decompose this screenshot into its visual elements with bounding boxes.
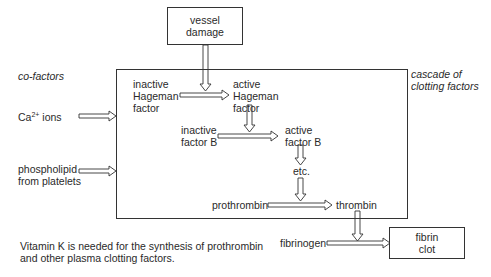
inactive-factor-b: inactive factor B: [181, 124, 217, 148]
inactive-factor-b-line1: inactive: [181, 124, 217, 136]
inactive-factor-b-line2: factor B: [181, 136, 217, 148]
vessel-damage-box: vessel damage: [167, 7, 243, 45]
active-factor-b-line2: factor B: [285, 136, 321, 148]
fibrin-clot-line2: clot: [390, 243, 464, 255]
vessel-damage-line2: damage: [168, 26, 242, 38]
active-factor-b-line1: active: [285, 124, 321, 136]
fibrinogen-label: fibrinogen: [280, 237, 326, 249]
fibrin-clot-line1: fibrin: [390, 231, 464, 243]
vitamin-k-note: Vitamin K is needed for the synthesis of…: [20, 240, 263, 264]
active-factor-b: active factor B: [285, 124, 321, 148]
vitamin-k-line1: Vitamin K is needed for the synthesis of…: [20, 240, 263, 252]
thrombin-label: thrombin: [336, 199, 377, 211]
phospholipid-line2: from platelets: [18, 175, 81, 187]
etc-label: etc.: [293, 165, 310, 177]
active-hageman-line1: active: [233, 78, 279, 90]
fibrin-clot-box: fibrin clot: [389, 227, 465, 259]
arrow-ca-to-cascade: [79, 111, 116, 121]
active-hageman-factor: active Hageman factor: [233, 78, 279, 114]
active-hageman-line2: Hageman: [233, 90, 279, 102]
vitamin-k-line2: and other plasma clotting factors.: [20, 252, 263, 264]
ca-base: Ca: [18, 111, 31, 123]
ca-ions-label: Ca2+ ions: [18, 111, 62, 123]
vessel-damage-line1: vessel: [168, 14, 242, 26]
prothrombin-label: prothrombin: [212, 199, 268, 211]
ca-charge: 2+: [31, 111, 39, 118]
cofactors-title: co-factors: [18, 70, 64, 82]
cascade-title: cascade of clotting factors: [411, 68, 479, 92]
ca-suffix: ions: [39, 111, 61, 123]
cascade-title-line2: clotting factors: [411, 80, 479, 92]
active-hageman-line3: factor: [233, 102, 279, 114]
inactive-hageman-factor: inactive Hageman factor: [133, 78, 179, 114]
phospholipid-line1: phospholipid: [18, 163, 81, 175]
cascade-title-line1: cascade of: [411, 68, 479, 80]
arrow-phospholipid-to-cascade: [79, 166, 116, 176]
phospholipid-label: phospholipid from platelets: [18, 163, 81, 187]
inactive-hageman-line3: factor: [133, 102, 179, 114]
inactive-hageman-line1: inactive: [133, 78, 179, 90]
inactive-hageman-line2: Hageman: [133, 90, 179, 102]
